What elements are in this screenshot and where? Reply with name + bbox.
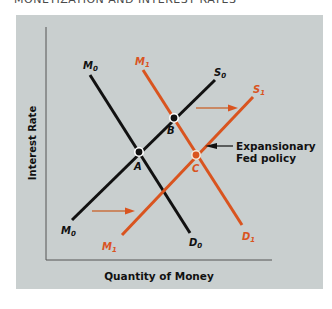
shift-arrow-top (196, 105, 238, 112)
curve-label-d0: D0 (189, 237, 202, 250)
annotation-line1: Expansionary (236, 140, 316, 152)
point-c-label: C (192, 163, 200, 174)
point-b-label: B (167, 125, 175, 136)
curve-label-m0-top: M0 (83, 60, 98, 73)
equilibrium-point-b (170, 114, 178, 122)
curve-label-d1: D1 (242, 231, 255, 244)
equilibrium-point-a (135, 148, 143, 156)
y-axis-label: Interest Rate (27, 106, 38, 181)
x-axis-label: Quantity of Money (104, 270, 214, 282)
curve-label-s0: S0 (214, 67, 226, 80)
point-a-label: A (133, 161, 142, 172)
curve-label-m0-bottom: M0 (61, 225, 76, 238)
curve-label-s1: S1 (253, 84, 265, 97)
shift-arrow-bottom (92, 208, 135, 215)
annotation-line2: Fed policy (236, 152, 296, 164)
equilibrium-point-c (192, 151, 200, 159)
curve-label-m1-bottom: M1 (102, 241, 117, 254)
money-market-diagram: Interest Rate Quantity of Money Expansio… (0, 0, 332, 309)
money-demand-1-curve (143, 70, 242, 225)
curve-label-m1-top: M1 (135, 56, 150, 69)
